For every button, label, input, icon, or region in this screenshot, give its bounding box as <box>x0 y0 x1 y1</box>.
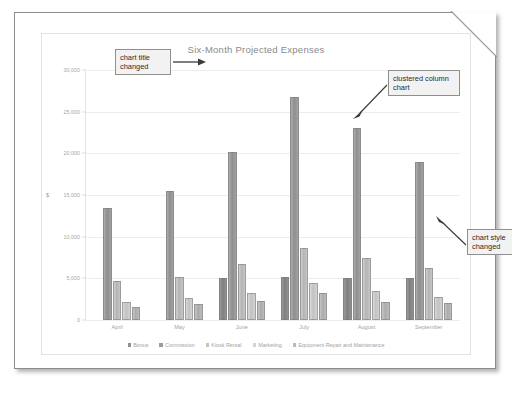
x-axis-tick-label: May <box>148 324 210 330</box>
screenshot-root: Six-Month Projected Expenses 05,00010,00… <box>0 0 512 394</box>
x-axis-tick-label: August <box>335 324 397 330</box>
legend-swatch-icon <box>206 343 210 347</box>
y-axis-tick-label: 15,000 <box>64 192 81 198</box>
legend-item[interactable]: Marketing <box>253 342 282 348</box>
chart-legend[interactable]: BonusCommissionKiosk RentalMarketingEqui… <box>42 342 470 348</box>
bar[interactable] <box>257 301 266 320</box>
x-axis-tick-label: April <box>86 324 148 330</box>
annotation-line-1: chart title <box>120 53 166 62</box>
annotation-line-1: chart style <box>472 233 512 242</box>
bar[interactable] <box>353 128 362 320</box>
annotation-line-2: chart <box>393 83 455 92</box>
y-axis-tick-label: 25,000 <box>64 109 81 115</box>
chart-title[interactable]: Six-Month Projected Expenses <box>42 44 470 55</box>
bar-group <box>219 70 266 320</box>
legend-item[interactable]: Commission <box>159 342 194 348</box>
bar[interactable] <box>166 191 175 320</box>
legend-item[interactable]: Equipment Repair and Maintenance <box>293 342 385 348</box>
bar[interactable] <box>343 278 352 320</box>
annotation-chart-style-changed[interactable]: chart style changed <box>467 229 512 255</box>
bar-group <box>156 70 203 320</box>
bar[interactable] <box>309 283 318 321</box>
legend-label: Commission <box>165 342 195 348</box>
bar-group <box>406 70 453 320</box>
bar[interactable] <box>185 298 194 321</box>
bar-groups <box>86 70 460 320</box>
y-axis-tick-label: 10,000 <box>64 234 81 240</box>
y-axis-title: $ <box>46 192 49 198</box>
y-axis-tick-label: 5,000 <box>67 275 81 281</box>
annotation-chart-title-changed[interactable]: chart title changed <box>115 49 171 75</box>
y-axis-tick-label: 20,000 <box>64 150 81 156</box>
legend-swatch-icon <box>159 343 163 347</box>
bar[interactable] <box>319 293 328 321</box>
bar[interactable] <box>238 264 247 320</box>
bar[interactable] <box>175 277 184 320</box>
x-axis-tick-label: July <box>273 324 335 330</box>
annotation-line-1: clustered column <box>393 74 455 83</box>
annotation-line-2: changed <box>472 242 512 251</box>
bar[interactable] <box>381 302 390 320</box>
chart-plot-area: 05,00010,00015,000$20,00025,00030,000 <box>86 70 460 320</box>
bar[interactable] <box>228 152 237 320</box>
x-axis-tick-label: September <box>398 324 460 330</box>
bar-group <box>281 70 328 320</box>
legend-swatch-icon <box>253 343 257 347</box>
bar-group <box>94 70 141 320</box>
bar[interactable] <box>434 297 443 320</box>
annotation-line-2: changed <box>120 62 166 71</box>
bar[interactable] <box>219 278 228 320</box>
bar[interactable] <box>281 277 290 320</box>
bar-group <box>343 70 390 320</box>
y-axis-tick-label: 30,000 <box>64 67 81 73</box>
legend-label: Kiosk Rental <box>211 342 241 348</box>
legend-label: Marketing <box>258 342 282 348</box>
y-axis-tick-label: 0 <box>77 317 80 323</box>
bar[interactable] <box>194 304 203 320</box>
bar[interactable] <box>362 258 371 321</box>
annotation-clustered-column-chart[interactable]: clustered column chart <box>388 70 460 96</box>
legend-swatch-icon <box>128 343 132 347</box>
bar[interactable] <box>122 302 131 320</box>
bar[interactable] <box>113 281 122 320</box>
bar[interactable] <box>425 268 434 321</box>
bar[interactable] <box>415 162 424 320</box>
x-axis-tick-label: June <box>211 324 273 330</box>
bar[interactable] <box>300 248 309 321</box>
x-axis-labels: AprilMayJuneJulyAugustSeptember <box>86 324 460 330</box>
bar[interactable] <box>132 307 141 320</box>
legend-item[interactable]: Kiosk Rental <box>206 342 242 348</box>
document-sheet: Six-Month Projected Expenses 05,00010,00… <box>14 12 496 369</box>
bar[interactable] <box>290 97 299 320</box>
page-fold-corner <box>452 12 496 56</box>
bar[interactable] <box>372 291 381 320</box>
gridline <box>86 320 460 321</box>
legend-swatch-icon <box>293 343 297 347</box>
legend-item[interactable]: Bonus <box>128 342 149 348</box>
bar[interactable] <box>406 278 415 320</box>
bar[interactable] <box>247 293 256 320</box>
bar[interactable] <box>444 303 453 321</box>
bar[interactable] <box>103 208 112 321</box>
legend-label: Equipment Repair and Maintenance <box>298 342 384 348</box>
legend-label: Bonus <box>133 342 148 348</box>
